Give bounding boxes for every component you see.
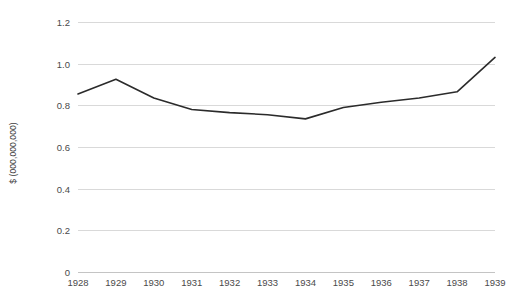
- series-line: [78, 57, 495, 118]
- y-axis-tick-label: 0: [10, 267, 70, 278]
- y-axis-tick-label: 1.0: [10, 58, 70, 69]
- y-axis-tick-label: 0.6: [10, 142, 70, 153]
- y-axis-tick-label: 0.2: [10, 225, 70, 236]
- gridline: [78, 272, 495, 273]
- series-line-group: [78, 22, 495, 272]
- y-axis-tick-label: 0.8: [10, 100, 70, 111]
- x-axis-tick-labels: 1928192919301931193219331934193519361937…: [78, 277, 495, 297]
- y-axis-tick-label: 0.4: [10, 183, 70, 194]
- x-axis-tick-label: 1939: [473, 277, 510, 288]
- plot-area: [78, 22, 495, 272]
- y-axis-tick-label: 1.2: [10, 17, 70, 28]
